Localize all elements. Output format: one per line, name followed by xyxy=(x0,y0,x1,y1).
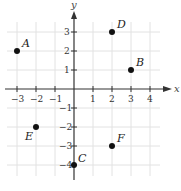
y-tick-label: −1 xyxy=(59,103,72,113)
point-label: E xyxy=(24,130,33,143)
y-tick-label: −2 xyxy=(59,122,72,132)
point-label: C xyxy=(78,152,87,165)
x-tick-label: −2 xyxy=(30,94,43,104)
point-label: B xyxy=(135,56,144,69)
y-axis-arrow-icon xyxy=(71,11,77,19)
x-axis-label: x xyxy=(174,83,180,94)
y-tick-label: 3 xyxy=(64,27,70,37)
point-label: D xyxy=(116,18,126,31)
x-tick-label: −3 xyxy=(11,94,25,104)
x-tick-label: 4 xyxy=(147,94,153,104)
coordinate-plane: x y −3 −2 −1 1 2 3 4 3 2 1 −1 −2 −3 xyxy=(0,0,181,191)
x-axis-arrow-icon xyxy=(163,86,172,92)
x-tick-label: 3 xyxy=(128,94,134,104)
x-tick-label: 2 xyxy=(109,94,115,104)
y-tick-label: −4 xyxy=(59,160,73,170)
y-axis-label: y xyxy=(70,0,77,10)
y-axis: y xyxy=(70,0,77,180)
point-label: F xyxy=(116,132,125,145)
y-tick-label: 2 xyxy=(64,46,70,56)
x-tick-label: 1 xyxy=(90,94,96,104)
y-tick-label: −3 xyxy=(59,141,73,151)
point-label: A xyxy=(21,37,30,50)
y-tick-label: 1 xyxy=(64,65,70,75)
